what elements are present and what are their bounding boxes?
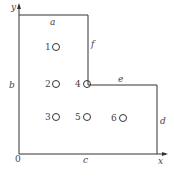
hole-label-4: 4 <box>75 79 81 89</box>
edge-label-b: b <box>9 80 15 90</box>
hole-6-icon <box>120 115 127 122</box>
edge-label-c: c <box>83 155 88 165</box>
hole-label-6: 6 <box>111 113 117 123</box>
hole-label-3: 3 <box>45 112 51 122</box>
y-axis-label: y <box>10 2 17 12</box>
edge-label-f: f <box>90 39 96 49</box>
edge-label-e: e <box>118 74 123 84</box>
edge-label-a: a <box>50 17 55 27</box>
l-shape-diagram: y x 0 a b c d e f 1 2 3 4 5 6 <box>0 0 174 179</box>
hole-3-icon <box>53 114 60 121</box>
y-axis-arrow-icon <box>17 3 21 9</box>
hole-2-icon <box>53 81 60 88</box>
l-shape-outline <box>19 15 157 154</box>
hole-5-icon <box>84 114 91 121</box>
hole-label-1: 1 <box>45 42 51 52</box>
edge-label-d: d <box>160 116 166 126</box>
hole-label-2: 2 <box>45 79 51 89</box>
hole-1-icon <box>53 44 60 51</box>
hole-label-5: 5 <box>75 112 81 122</box>
origin-label: 0 <box>15 154 21 164</box>
hole-4-icon <box>84 81 91 88</box>
x-axis-label: x <box>158 156 163 166</box>
